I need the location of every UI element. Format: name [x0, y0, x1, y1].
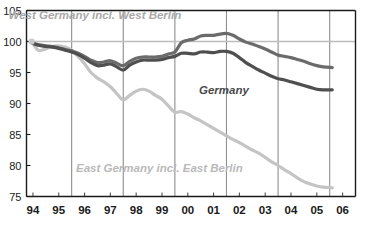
ytick-label-85: 85 [9, 129, 21, 141]
xtick-label-00: 00 [181, 204, 194, 216]
xtick-label-95: 95 [52, 204, 65, 216]
xtick-label-96: 96 [78, 204, 91, 216]
xtick-label-02: 02 [233, 204, 246, 216]
series-start-marker [29, 38, 35, 44]
xtick-label-06: 06 [336, 204, 349, 216]
index-line-chart: 7580859095100105949596979899000102030405… [0, 0, 366, 229]
xtick-label-94: 94 [27, 204, 40, 216]
xtick-label-99: 99 [156, 204, 169, 216]
annotation-west-germany-label: West Germany incl. West Berlin [8, 9, 181, 21]
annotation-east-germany-label: East Germany incl. East Berlin [76, 162, 243, 174]
annotation-germany-label: Germany [199, 84, 249, 96]
xtick-label-01: 01 [207, 204, 220, 216]
xtick-label-97: 97 [104, 204, 117, 216]
xtick-label-98: 98 [130, 204, 143, 216]
ytick-label-90: 90 [9, 98, 21, 110]
ytick-label-100: 100 [3, 36, 21, 48]
ytick-label-80: 80 [9, 160, 21, 172]
ytick-label-95: 95 [9, 67, 21, 79]
ytick-label-75: 75 [9, 191, 21, 203]
xtick-label-03: 03 [259, 204, 272, 216]
xtick-label-05: 05 [310, 204, 323, 216]
chart-container: 7580859095100105949596979899000102030405… [0, 0, 366, 229]
xtick-label-04: 04 [285, 204, 298, 216]
